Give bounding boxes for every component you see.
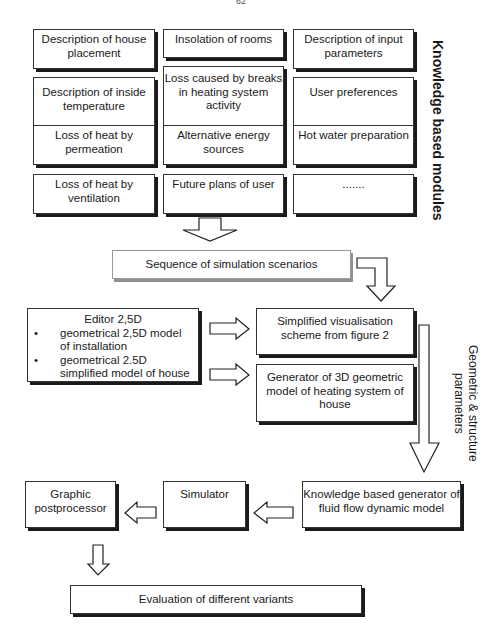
sequence-box: Sequence of simulation scenarios bbox=[112, 250, 351, 279]
geometric-parameters-label: Geometric & structure parameters bbox=[452, 345, 480, 462]
module-future-plans: Future plans of user bbox=[163, 174, 284, 214]
module-heating-breaks: Loss caused by breaks in heating system … bbox=[163, 66, 284, 126]
module-inside-temperature: Description of inside temperature bbox=[33, 77, 155, 126]
editor-bullet-list: geometrical 2,5D model of installation g… bbox=[34, 327, 192, 381]
generator-3d-box: Generator of 3D geometric model of heati… bbox=[256, 364, 414, 422]
visualisation-box: Simplified visualisation scheme from fig… bbox=[256, 308, 414, 355]
module-heat-permeation: Loss of heat by permeation bbox=[33, 125, 155, 165]
editor-box: Editor 2,5D geometrical 2,5D model of in… bbox=[27, 308, 199, 382]
module-user-preferences: User preferences bbox=[293, 77, 414, 126]
arrow-down-icon bbox=[182, 218, 238, 242]
module-heat-ventilation: Loss of heat by ventilation bbox=[33, 174, 155, 214]
arrow-right-icon bbox=[210, 364, 250, 386]
editor-bullet-item: geometrical 2.5D simplified model of hou… bbox=[34, 354, 192, 381]
knowledge-modules-label: Knowledge based modules bbox=[430, 40, 446, 220]
module-alternative-energy: Alternative energy sources bbox=[163, 125, 284, 165]
fluid-flow-generator-box: Knowledge based generator of fluid flow … bbox=[302, 481, 461, 528]
arrow-left-icon bbox=[125, 502, 157, 524]
module-house-placement: Description of house placement bbox=[33, 29, 155, 69]
module-input-parameters: Description of input parameters bbox=[293, 29, 414, 69]
editor-title: Editor 2,5D bbox=[34, 313, 192, 327]
arrow-long-down-icon bbox=[414, 325, 440, 473]
module-hot-water: Hot water preparation bbox=[293, 125, 414, 165]
graphic-postprocessor-box: Graphic postprocessor bbox=[25, 481, 116, 528]
simulator-box: Simulator bbox=[163, 481, 246, 528]
arrow-elbow-down-icon bbox=[357, 258, 401, 302]
editor-bullet-item: geometrical 2,5D model of installation bbox=[34, 327, 192, 354]
arrow-down-icon bbox=[88, 545, 110, 577]
module-ellipsis: ....... bbox=[293, 174, 414, 214]
arrow-left-icon bbox=[254, 502, 294, 524]
module-insolation: Insolation of rooms bbox=[163, 29, 284, 58]
page-number: 62 bbox=[236, 0, 246, 6]
arrow-right-icon bbox=[210, 318, 250, 340]
evaluation-box: Evaluation of different variants bbox=[70, 585, 362, 614]
